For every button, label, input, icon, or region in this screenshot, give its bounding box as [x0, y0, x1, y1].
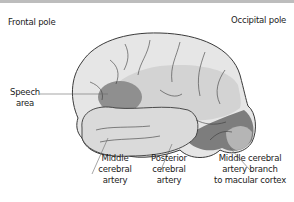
label-middle-cerebral-artery: Middle cerebral artery — [95, 153, 135, 186]
label-pca-line1: Posterior — [146, 153, 192, 164]
label-mcab-line2: artery branch — [208, 164, 292, 175]
label-pca-line2: cerebral — [146, 164, 192, 175]
label-speech-line2: area — [6, 98, 44, 109]
label-mca-line3: artery — [95, 175, 135, 186]
label-frontal-pole: Frontal pole — [8, 17, 56, 28]
label-speech-area: Speech area — [6, 87, 44, 109]
label-macular-branch: Middle cerebral artery branch to macular… — [208, 153, 292, 186]
label-speech-line1: Speech — [6, 87, 44, 98]
label-occipital-pole: Occipital pole — [231, 15, 286, 26]
label-mca-line1: Middle — [95, 153, 135, 164]
label-mcab-line3: to macular cortex — [208, 175, 292, 186]
label-mcab-line1: Middle cerebral — [208, 153, 292, 164]
label-posterior-cerebral-artery: Posterior cerebral artery — [146, 153, 192, 186]
label-pca-line3: artery — [146, 175, 192, 186]
label-mca-line2: cerebral — [95, 164, 135, 175]
